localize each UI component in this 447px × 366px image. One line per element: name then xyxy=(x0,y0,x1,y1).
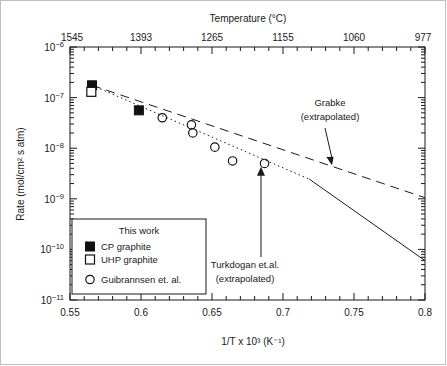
data-point-filled-square xyxy=(134,106,143,115)
trend-line-dotted xyxy=(92,85,309,179)
legend-entry-label: Guibrannsen et. al. xyxy=(101,274,181,285)
y-axis-tick-label: 10−6 xyxy=(44,40,64,53)
y-axis-tick-label: 10−10 xyxy=(40,242,64,255)
turkdogan-annotation-line: Turkdogan et.al. xyxy=(211,259,279,270)
annotations: Grabke(extrapolated)Turkdogan et.al.(ext… xyxy=(211,97,359,284)
top-axis-tick-label: 1060 xyxy=(343,32,366,43)
data-point-open-circle xyxy=(211,143,219,151)
x-axis-tick-label: 0.6 xyxy=(134,307,148,318)
turkdogan-annotation-line: (extrapolated) xyxy=(216,273,275,284)
legend: This work CP graphiteUHP graphiteGuibran… xyxy=(72,219,206,294)
x-axis-tick-label: 0.7 xyxy=(276,307,290,318)
y-axis-tick-label: 10−7 xyxy=(44,91,64,104)
x-axis-tick-label: 0.8 xyxy=(418,307,432,318)
chart-figure: Temperature (°C) 15451393126511551060977… xyxy=(0,0,447,366)
top-axis-tick-label: 1393 xyxy=(130,32,153,43)
x-axis-title: 1/T x 10³ (K⁻¹) xyxy=(221,336,285,347)
data-markers xyxy=(87,81,269,168)
y-axis-title: Rate (mol/cm² s atm) xyxy=(15,127,26,220)
data-point-open-square xyxy=(87,87,96,96)
x-axis-tick-label: 0.55 xyxy=(60,307,80,318)
y-axis-tick-labels: 10−610−710−810−910−1010−11 xyxy=(40,40,64,306)
data-point-open-circle xyxy=(228,157,236,165)
legend-entry-label: UHP graphite xyxy=(101,254,158,265)
y-axis-tick-label: 10−8 xyxy=(44,141,64,154)
data-point-open-circle xyxy=(189,129,197,137)
data-point-open-circle xyxy=(158,114,166,122)
x-axis-tick-labels: 0.550.60.650.70.750.8 xyxy=(60,307,432,318)
grabke-annotation-line: (extrapolated) xyxy=(301,111,360,122)
top-axis-tick-labels: 15451393126511551060977 xyxy=(61,32,432,43)
grabke-arrow-shaft xyxy=(325,128,332,158)
legend-entry-label: CP graphite xyxy=(101,241,151,252)
top-axis-tick-label: 1265 xyxy=(201,32,224,43)
chart-canvas: Temperature (°C) 15451393126511551060977… xyxy=(0,0,447,366)
legend-title: This work xyxy=(119,225,160,236)
x-axis-tick-label: 0.75 xyxy=(344,307,364,318)
top-axis-tick-label: 1545 xyxy=(61,32,84,43)
data-point-open-circle xyxy=(260,159,268,167)
grabke-arrow-head xyxy=(326,157,333,166)
trend-line-dashed xyxy=(92,85,425,197)
y-axis-tick-label: 10−9 xyxy=(44,192,64,205)
trend-line-solid xyxy=(309,179,425,261)
legend-marker-open-square xyxy=(86,255,95,264)
y-axis-tick-label: 10−11 xyxy=(41,293,64,306)
legend-marker-filled-square xyxy=(86,242,95,251)
top-axis-title: Temperature (°C) xyxy=(210,13,287,24)
top-axis-tick-label: 977 xyxy=(415,32,432,43)
grabke-annotation-line: Grabke xyxy=(314,97,345,108)
x-axis-tick-label: 0.65 xyxy=(202,307,222,318)
top-axis-tick-label: 1155 xyxy=(272,32,294,43)
